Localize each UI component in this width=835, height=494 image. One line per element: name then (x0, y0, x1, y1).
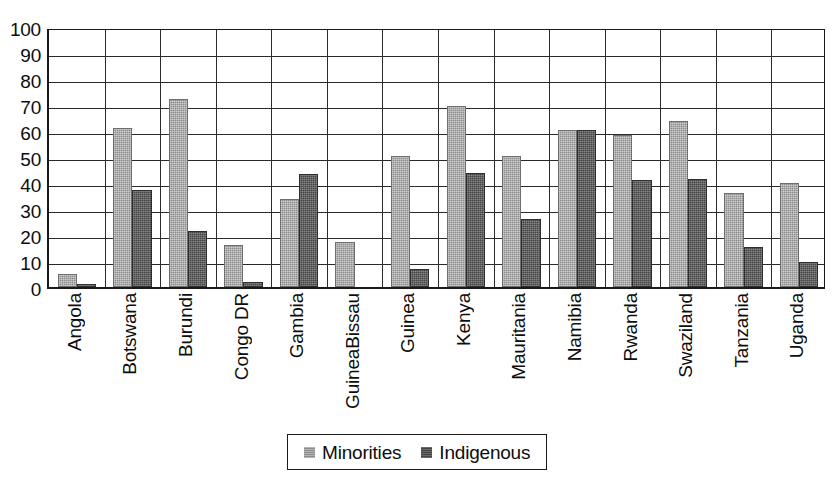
bar-minorities-guinea (391, 156, 410, 287)
bar-minorities-botswana (113, 128, 132, 287)
category-separator (771, 30, 772, 287)
bar-group (660, 30, 716, 287)
bar-minorities-uganda (780, 183, 799, 287)
bars-layer (49, 30, 824, 287)
x-tick-label: GuineaBissau (343, 293, 362, 409)
bar-indigenous-rwanda (632, 180, 651, 287)
bar-indigenous-guinea (410, 269, 429, 287)
bar-minorities-namibia (558, 130, 577, 287)
x-tick-label: Angola (65, 293, 84, 351)
y-tick-label: 20 (1, 228, 41, 247)
y-tick-label: 100 (1, 20, 41, 39)
bar-group (494, 30, 550, 287)
bar-indigenous-namibia (577, 130, 596, 287)
bar-minorities-guineabissau (335, 242, 354, 288)
x-tick-label: Guinea (398, 293, 417, 353)
x-tick-label: Tanzania (732, 293, 751, 367)
bar-group (605, 30, 661, 287)
bar-minorities-congo-dr (224, 245, 243, 287)
chart-legend: MinoritiesIndigenous (287, 434, 547, 470)
y-axis: 1009080706050403020100 (0, 18, 44, 300)
x-tick-label: Kenya (454, 293, 473, 346)
x-tick-label: Swaziland (676, 293, 695, 378)
bar-indigenous-burundi (188, 231, 207, 287)
bar-indigenous-kenya (466, 173, 485, 287)
bar-indigenous-botswana (132, 190, 151, 288)
bar-group (327, 30, 383, 287)
bar-group (382, 30, 438, 287)
category-separator (605, 30, 606, 287)
x-tick-label: Botswana (120, 293, 139, 375)
y-tick-label: 0 (1, 280, 41, 299)
bar-indigenous-swaziland (688, 179, 707, 287)
category-separator (216, 30, 217, 287)
bar-minorities-kenya (447, 106, 466, 287)
bar-group (549, 30, 605, 287)
category-separator (438, 30, 439, 287)
category-separator (160, 30, 161, 287)
bar-group (216, 30, 272, 287)
x-tick-label: Gambia (287, 293, 306, 358)
minorities-swatch-icon (304, 447, 315, 458)
y-tick-label: 90 (1, 46, 41, 65)
bar-indigenous-mauritania (521, 219, 540, 287)
category-separator (660, 30, 661, 287)
x-tick-label: Burundi (176, 293, 195, 357)
category-separator (716, 30, 717, 287)
category-separator (105, 30, 106, 287)
x-tick-label: Congo DR (232, 293, 251, 380)
y-tick-label: 40 (1, 176, 41, 195)
y-tick-label: 70 (1, 98, 41, 117)
category-separator (549, 30, 550, 287)
y-tick-label: 50 (1, 150, 41, 169)
y-tick-label: 80 (1, 72, 41, 91)
bar-minorities-rwanda (613, 135, 632, 287)
legend-entry-minorities: Minorities (304, 443, 401, 462)
indigenous-swatch-icon (421, 447, 432, 458)
bar-group (105, 30, 161, 287)
bar-minorities-mauritania (502, 156, 521, 287)
bar-indigenous-gambia (299, 174, 318, 287)
bar-indigenous-tanzania (744, 247, 763, 287)
bar-indigenous-angola (77, 284, 96, 287)
bar-chart: 1009080706050403020100 AngolaBotswanaBur… (0, 0, 835, 494)
bar-indigenous-congo-dr (243, 282, 262, 287)
x-axis-labels: AngolaBotswanaBurundiCongo DRGambiaGuine… (47, 291, 825, 421)
y-tick-label: 10 (1, 254, 41, 273)
y-tick-label: 60 (1, 124, 41, 143)
x-tick-label: Mauritania (509, 293, 528, 380)
bar-group (271, 30, 327, 287)
bar-group (438, 30, 494, 287)
x-tick-label: Rwanda (621, 293, 640, 362)
category-separator (382, 30, 383, 287)
x-tick-label: Namibia (565, 293, 584, 361)
category-separator (327, 30, 328, 287)
bar-group (771, 30, 827, 287)
category-separator (494, 30, 495, 287)
legend-entry-indigenous: Indigenous (421, 443, 530, 462)
bar-minorities-angola (58, 274, 77, 287)
bar-group (160, 30, 216, 287)
legend-label: Indigenous (439, 443, 530, 462)
x-tick-label: Uganda (787, 293, 806, 358)
bar-group (716, 30, 772, 287)
plot-area (47, 29, 825, 289)
bar-minorities-tanzania (724, 193, 743, 287)
category-separator (271, 30, 272, 287)
bar-indigenous-uganda (799, 262, 818, 287)
bar-minorities-swaziland (669, 121, 688, 287)
bar-minorities-gambia (280, 199, 299, 287)
legend-label: Minorities (322, 443, 401, 462)
bar-minorities-burundi (169, 99, 188, 288)
y-tick-label: 30 (1, 202, 41, 221)
bar-group (49, 30, 105, 287)
